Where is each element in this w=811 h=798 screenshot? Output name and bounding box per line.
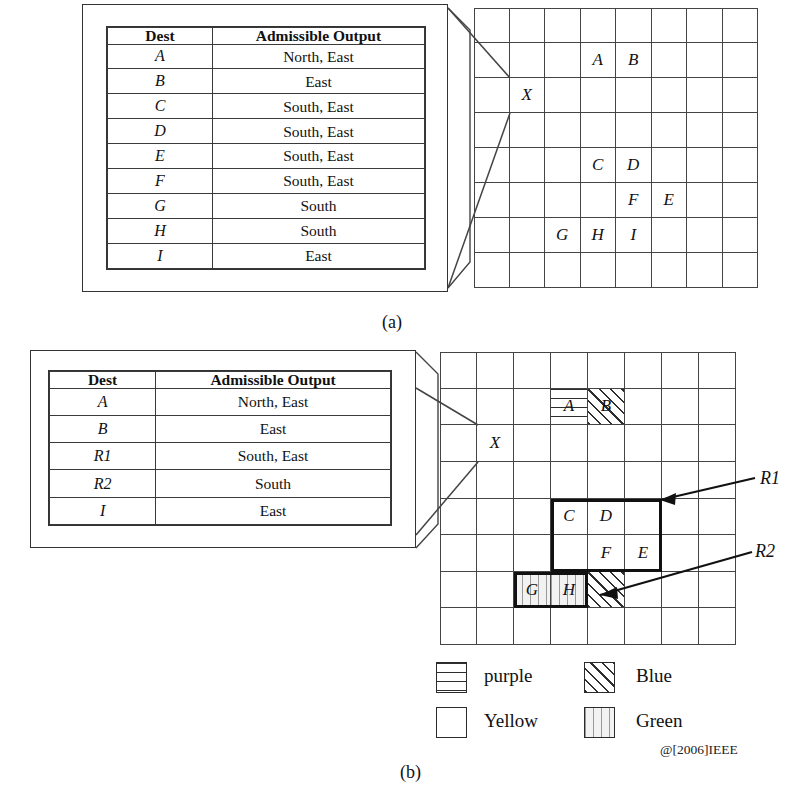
- figure-canvas: Dest Admissible Output A North, East B E…: [0, 0, 811, 798]
- cell-output: South, East: [212, 119, 424, 144]
- legend-label-yellow: Yellow: [484, 710, 538, 732]
- grid-a-cell-label: I: [630, 225, 636, 245]
- table-row: C South, East: [108, 94, 425, 119]
- grid-b-cell-label: D: [600, 506, 612, 526]
- table-row: R1 South, East: [50, 443, 391, 470]
- grid-b-cell-r7-c2: [514, 608, 551, 645]
- legend-label-blue: Blue: [636, 665, 672, 687]
- grid-b-cell-r2-c0: [440, 425, 477, 462]
- grid-a-cell-C: C: [581, 148, 617, 183]
- cell-output: North, East: [156, 388, 391, 415]
- grid-a-cell-r3-c3: [581, 113, 617, 148]
- grid-b-cell-D: D: [588, 499, 625, 536]
- grid-a-cell-r0-c1: [510, 8, 546, 43]
- grid-a-cell-r3-c1: [510, 113, 546, 148]
- legend: purple Blue Yellow Green: [436, 662, 736, 750]
- table-row: G South: [108, 194, 425, 219]
- grid-b-cell-r5-c1: [477, 535, 514, 572]
- grid-b-cell-r3-c7: [699, 462, 736, 499]
- cell-dest: A: [108, 44, 213, 69]
- grid-b-cell-A: A: [551, 389, 588, 426]
- cell-output: South: [212, 219, 424, 244]
- grid-a-cell-r2-c2: [545, 78, 581, 113]
- legend-swatch-blue: [584, 662, 615, 693]
- grid-b-cell-r3-c5: [625, 462, 662, 499]
- column-header-admissible-output: Admissible Output: [212, 28, 424, 45]
- grid-b-cell-r1-c0: [440, 389, 477, 426]
- grid-a-cell-r1-c5: [652, 43, 688, 78]
- grid-a-cell-r3-c7: [723, 113, 759, 148]
- cell-output: East: [156, 497, 391, 524]
- table-row: I East: [108, 244, 425, 269]
- grid-a-cell-A: A: [581, 43, 617, 78]
- mesh-grid-a: ABXCDFEGHI: [474, 8, 758, 288]
- cell-dest: B: [108, 69, 213, 94]
- legend-swatch-green: [584, 707, 615, 738]
- grid-b-cell-r1-c1: [477, 389, 514, 426]
- grid-b-cell-r0-c2: [514, 352, 551, 389]
- grid-b-cell-r6-c0: [440, 572, 477, 609]
- grid-a-cell-r7-c3: [581, 253, 617, 288]
- table-row: I East: [50, 497, 391, 524]
- grid-b-cell-r5-c3: [551, 535, 588, 572]
- grid-a-cell-r2-c5: [652, 78, 688, 113]
- grid-b-cell-label: X: [490, 433, 500, 453]
- grid-a-cell-G: G: [545, 218, 581, 253]
- grid-b-cell-r4-c2: [514, 499, 551, 536]
- grid-a-cell-E: E: [652, 183, 688, 218]
- column-header-dest: Dest: [50, 372, 156, 389]
- grid-a-cell-r4-c1: [510, 148, 546, 183]
- grid-b-cell-G: G: [514, 572, 551, 609]
- grid-a-cell-r2-c4: [616, 78, 652, 113]
- grid-b-cell-r0-c1: [477, 352, 514, 389]
- grid-a-cell-r6-c5: [652, 218, 688, 253]
- grid-b-cell-r7-c5: [625, 608, 662, 645]
- grid-a-cell-r7-c5: [652, 253, 688, 288]
- grid-a-cell-r5-c1: [510, 183, 546, 218]
- grid-b-cell-r1-c5: [625, 389, 662, 426]
- grid-b-cell-r7-c6: [662, 608, 699, 645]
- grid-b-cell-r3-c3: [551, 462, 588, 499]
- grid-a-cell-r1-c0: [474, 43, 510, 78]
- grid-b-cell-r2-c6: [662, 425, 699, 462]
- grid-a-cell-r6-c0: [474, 218, 510, 253]
- grid-b-cell-H: H: [551, 572, 588, 609]
- grid-b-cell-r4-c1: [477, 499, 514, 536]
- grid-b-cell-r0-c7: [699, 352, 736, 389]
- grid-b-cell-r0-c0: [440, 352, 477, 389]
- grid-a-cell-r2-c7: [723, 78, 759, 113]
- grid-a-cell-r5-c6: [687, 183, 723, 218]
- grid-b-cell-r4-c0: [440, 499, 477, 536]
- grid-a-cell-label: E: [664, 190, 674, 210]
- grid-b-cell-r7-c4: [588, 608, 625, 645]
- grid-b-cell-r1-c7: [699, 389, 736, 426]
- cell-dest: D: [108, 119, 213, 144]
- grid-b-cell-r7-c7: [699, 608, 736, 645]
- grid-a-cell-r0-c2: [545, 8, 581, 43]
- grid-a-cell-r3-c5: [652, 113, 688, 148]
- grid-b-cell-r2-c3: [551, 425, 588, 462]
- cell-dest: H: [108, 219, 213, 244]
- grid-b-cell-B: B: [588, 389, 625, 426]
- grid-b-cell-r1-c2: [514, 389, 551, 426]
- cell-dest: G: [108, 194, 213, 219]
- grid-b-cell-r0-c3: [551, 352, 588, 389]
- grid-a-cell-r3-c4: [616, 113, 652, 148]
- grid-a-cell-r3-c2: [545, 113, 581, 148]
- cell-output: South: [212, 194, 424, 219]
- grid-a-cell-r2-c0: [474, 78, 510, 113]
- cell-output: East: [212, 244, 424, 269]
- grid-b-cell-r5-c6: [662, 535, 699, 572]
- grid-b-cell-label: G: [526, 580, 538, 600]
- grid-b-cell-F: F: [588, 535, 625, 572]
- cell-output: South, East: [212, 94, 424, 119]
- grid-a-cell-label: C: [592, 155, 603, 175]
- grid-a-cell-label: H: [592, 225, 604, 245]
- grid-b-cell-r3-c0: [440, 462, 477, 499]
- table-row: B East: [50, 415, 391, 442]
- table-header-row: Dest Admissible Output: [108, 28, 425, 45]
- region-label-r1: R1: [760, 468, 780, 489]
- grid-a-cell-r4-c5: [652, 148, 688, 183]
- legend-swatch-yellow: [436, 707, 467, 738]
- grid-a-cell-H: H: [581, 218, 617, 253]
